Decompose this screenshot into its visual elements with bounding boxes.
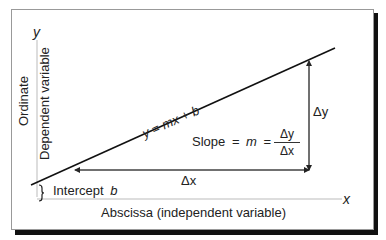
slope-numerator: Δy: [274, 127, 300, 143]
slope-equals-1: =: [232, 134, 240, 149]
intercept-label: Intercept b: [53, 183, 117, 198]
abscissa-label: Abscissa (independent variable): [101, 205, 286, 220]
slope-denominator: Δx: [274, 143, 300, 158]
delta-x-label: Δx: [181, 173, 196, 188]
intercept-text: Intercept: [53, 183, 104, 198]
slope-equals-2: =: [264, 134, 272, 149]
slope-label: Slope: [192, 134, 225, 149]
y-axis-label: y: [33, 24, 40, 40]
slope-fraction: Δy Δx: [274, 127, 300, 158]
slope-m: m: [246, 134, 257, 149]
dependent-variable-label: Dependent variable: [37, 47, 52, 160]
x-axis-label: x: [343, 191, 350, 207]
intercept-symbol: b: [110, 183, 117, 198]
slope-formula: Slope = m =: [192, 134, 271, 149]
ordinate-label: Ordinate: [16, 76, 31, 126]
delta-y-label: Δy: [313, 104, 328, 119]
